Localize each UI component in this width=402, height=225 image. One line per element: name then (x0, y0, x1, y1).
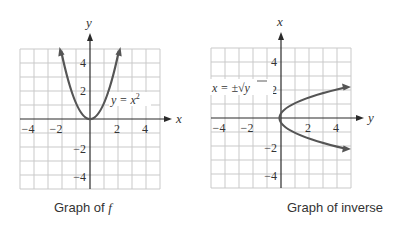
curve-arrow-lower-icon (342, 146, 351, 153)
tick-v-neg4: −4 (264, 169, 277, 183)
caption-graph-of-inverse: Graph of inverse (287, 200, 383, 215)
tick-x-neg2: −2 (50, 122, 63, 136)
tick-v-4: 4 (271, 55, 277, 69)
curve-arrow-right-icon (116, 47, 122, 57)
tick-x-2: 2 (114, 122, 120, 136)
tick-h-neg2: −2 (241, 121, 254, 135)
axes (211, 39, 358, 188)
tick-y-neg4: −4 (73, 170, 86, 184)
graph-of-f: x y −4 −2 2 4 4 2 −2 −4 y = x2 (0, 0, 200, 225)
vertical-axis-label: x (276, 14, 283, 29)
curve-label: y = x2 (110, 92, 140, 107)
horizontal-axis-arrow-icon (356, 115, 364, 121)
x-axis-label: x (175, 111, 182, 126)
tick-h-neg4: −4 (213, 121, 226, 135)
curve-label: x = ±√y (211, 81, 251, 95)
tick-labels: −4 −2 2 4 4 2 −2 −4 (22, 56, 148, 184)
tick-h-4: 4 (333, 121, 339, 135)
y-axis-label: y (84, 15, 92, 30)
tick-h-2: 2 (305, 121, 311, 135)
caption-function-var: f (108, 200, 112, 215)
tick-x-4: 4 (142, 122, 148, 136)
tick-labels: −4 −2 2 4 4 2 −2 −4 (213, 55, 339, 183)
horizontal-axis-label: y (366, 110, 374, 125)
curve-arrow-left-icon (58, 47, 64, 57)
graph-of-inverse: y x −4 −2 2 4 4 2 −2 −4 x = ±√y (200, 0, 402, 225)
vertical-axis-arrow-icon (278, 32, 284, 40)
tick-v-neg2: −2 (264, 141, 277, 155)
tick-y-neg2: −2 (73, 142, 86, 156)
caption-graph-of-f: Graph of f (54, 200, 112, 216)
axes (20, 40, 166, 189)
tick-y-2: 2 (80, 84, 86, 98)
y-axis-arrow-icon (87, 33, 93, 41)
tick-x-neg4: −4 (22, 122, 35, 136)
caption-text: Graph of (54, 200, 108, 215)
curve-arrow-upper-icon (342, 84, 351, 91)
x-axis-arrow-icon (164, 116, 172, 122)
tick-y-4: 4 (80, 56, 86, 70)
